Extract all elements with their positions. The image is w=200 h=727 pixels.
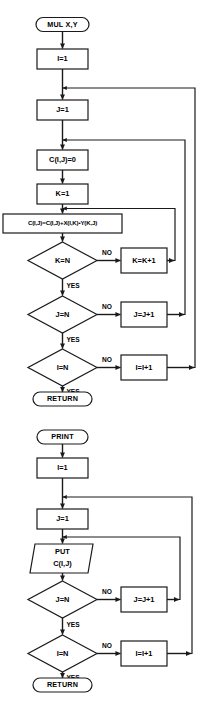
node-mul-j1: J=1	[37, 100, 88, 120]
node-mul-jinc-label: J=J+1	[134, 310, 155, 319]
node-mul-start-label: MUL X,Y	[47, 20, 77, 29]
edge-label-print-in-no: NO	[102, 642, 112, 649]
node-print-iinc: I=I+1	[121, 641, 167, 666]
node-print-in: I=N	[28, 635, 97, 672]
node-mul-return-label: RETURN	[47, 394, 78, 403]
multiply-flowchart: MUL X,Y I=1 J=1 C(I,J)=0 K=1	[3, 18, 195, 407]
node-mul-iinc-label: I=I+1	[136, 363, 153, 372]
node-print-jn: J=N	[28, 581, 97, 618]
node-mul-kn-label: K=N	[55, 256, 70, 265]
node-print-put: PUT C(I,J)	[30, 544, 93, 573]
node-mul-start: MUL X,Y	[36, 18, 89, 32]
edge-label-mul-kn-no: NO	[102, 249, 112, 256]
node-mul-cij0: C(I,J)=0	[37, 150, 88, 170]
node-mul-i1-label: I=1	[57, 54, 67, 63]
node-print-put-label: PUT	[55, 547, 70, 556]
node-mul-accum: C(I,J)=C(I,J)+X(I,K)•Y(K,J)	[3, 214, 122, 233]
node-mul-kn: K=N	[28, 242, 97, 279]
edge-label-mul-in-no: NO	[102, 356, 112, 363]
node-mul-k1-label: K=1	[56, 189, 70, 198]
print-flowchart: PRINT I=1 J=1 PUT C(I,J) J=N NO	[28, 430, 192, 692]
node-mul-jn: J=N	[28, 296, 97, 333]
node-print-in-label: I=N	[57, 649, 69, 658]
node-print-start-label: PRINT	[51, 432, 74, 441]
node-mul-cij0-label: C(I,J)=0	[49, 155, 76, 164]
node-print-return: RETURN	[33, 678, 92, 692]
flowchart-canvas: MUL X,Y I=1 J=1 C(I,J)=0 K=1	[0, 0, 200, 727]
node-print-jinc: J=J+1	[121, 587, 167, 612]
node-mul-kinc-label: K=K+1	[132, 256, 155, 265]
edge-label-mul-kn-yes: YES	[66, 282, 80, 289]
node-mul-return: RETURN	[33, 392, 92, 406]
edge-label-mul-jn-yes: YES	[66, 336, 80, 343]
edge-label-print-jn-no: NO	[102, 588, 112, 595]
node-mul-in-label: I=N	[57, 363, 69, 372]
node-mul-i1: I=1	[37, 49, 88, 69]
node-mul-j1-label: J=1	[56, 105, 69, 114]
node-print-j1-label: J=1	[56, 514, 69, 523]
edge-label-mul-jn-no: NO	[102, 303, 112, 310]
node-mul-jn-label: J=N	[56, 310, 70, 319]
node-print-j1: J=1	[37, 509, 88, 529]
node-print-put-operand: C(I,J)	[53, 559, 72, 568]
edge-label-print-jn-yes: YES	[66, 621, 80, 628]
node-mul-jinc: J=J+1	[121, 302, 167, 327]
node-mul-iinc: I=I+1	[121, 355, 167, 380]
node-print-jinc-label: J=J+1	[134, 595, 155, 604]
node-mul-in: I=N	[28, 349, 97, 386]
node-print-iinc-label: I=I+1	[136, 649, 153, 658]
node-print-i1: I=1	[37, 458, 88, 478]
node-mul-k1: K=1	[37, 184, 88, 204]
node-print-start: PRINT	[37, 430, 88, 444]
node-print-jn-label: J=N	[56, 595, 70, 604]
node-print-i1-label: I=1	[57, 463, 67, 472]
node-mul-accum-label: C(I,J)=C(I,J)+X(I,K)•Y(K,J)	[28, 219, 97, 226]
node-print-return-label: RETURN	[47, 680, 78, 689]
flowchart-page: MUL X,Y I=1 J=1 C(I,J)=0 K=1	[0, 0, 200, 727]
node-mul-kinc: K=K+1	[121, 248, 167, 273]
